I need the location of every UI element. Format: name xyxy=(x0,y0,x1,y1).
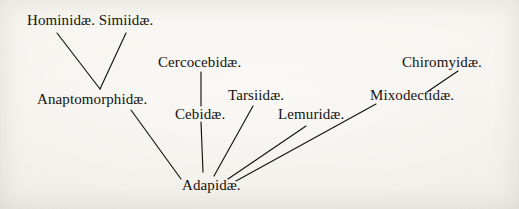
edge-simiidae-anaptomorphidae xyxy=(100,33,126,89)
taxon-label-mixodectidae: Mixodectidæ. xyxy=(370,88,454,103)
taxon-label-adapidae: Adapidæ. xyxy=(182,178,241,193)
taxon-label-chiromyidae: Chiromyidæ. xyxy=(402,55,482,70)
taxon-label-hominidae-simiidae: Hominidæ. Simiidæ. xyxy=(27,13,153,28)
taxon-label-tarsiidae: Tarsiidæ. xyxy=(228,88,284,103)
taxon-label-lemuridae: Lemuridæ. xyxy=(278,107,344,122)
taxon-label-anaptomorphidae: Anaptomorphidæ. xyxy=(37,92,147,107)
edge-anaptomorphidae-adapidae xyxy=(131,110,181,179)
taxon-label-cercocebidae: Cercocebidæ. xyxy=(158,55,241,70)
edge-lemuridae-adapidae xyxy=(228,126,306,179)
phylogenetic-tree-figure: Hominidæ. Simiidæ.Cercocebidæ.Chiromyidæ… xyxy=(0,0,519,209)
edge-hominidae-anaptomorphidae xyxy=(57,33,100,89)
taxon-label-cebidae: Cebidæ. xyxy=(175,107,225,122)
edge-cebidae-adapidae xyxy=(201,122,203,172)
